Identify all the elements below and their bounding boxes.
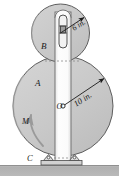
slot-slider-block xyxy=(61,26,66,33)
ground-band xyxy=(0,165,119,176)
mechanics-diagram: 6 in. 10 in. O M A B xyxy=(0,0,119,176)
support-c-label: C xyxy=(27,153,33,163)
center-point-o-label: O xyxy=(57,102,63,111)
moment-label: M xyxy=(21,116,30,126)
support-pin-right xyxy=(73,156,76,159)
support-pin-left xyxy=(47,156,50,159)
figure-container: 6 in. 10 in. O M A B xyxy=(0,0,119,176)
support-base-plate xyxy=(41,161,82,166)
ground-group xyxy=(0,165,119,176)
disk-b-label: B xyxy=(41,41,47,51)
disk-a-label: A xyxy=(34,78,41,88)
vertical-bar-group xyxy=(55,10,71,162)
